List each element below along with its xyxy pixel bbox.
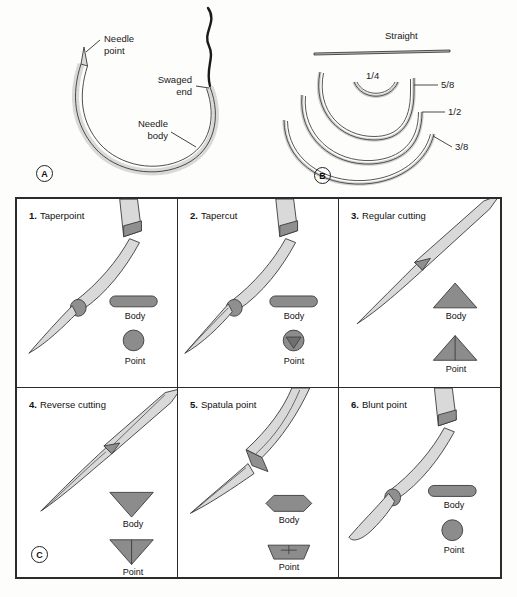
xsec-point-6: [442, 520, 463, 541]
xsec-body-label-3: Body: [425, 311, 487, 321]
needle-art-spatula-point: [178, 388, 338, 577]
needle-tip-facet-4: [43, 452, 106, 510]
needle-arc-five-eighths-fill: [319, 72, 414, 140]
xsec-body-2: [270, 296, 317, 307]
panel-badge-b: B: [314, 167, 331, 184]
xsec-body-label-1: Body: [104, 311, 166, 321]
needle-tip-1: [29, 306, 76, 353]
label-needle-body: Needle body: [96, 118, 168, 141]
needle-tip-4: [41, 448, 112, 511]
needle-type-cell-5: 5.Spatula point Body Point: [178, 388, 339, 577]
xsec-point-1: [123, 330, 144, 351]
needle-arc-quarter-fill: [354, 82, 398, 96]
xsec-body-label-6: Body: [423, 500, 485, 510]
needle-arc-five-eighths-outer: [319, 72, 414, 140]
leader-swaged-end: [196, 86, 209, 88]
xsec-body-6: [428, 485, 476, 496]
panel-badge-a: A: [36, 165, 53, 182]
label-five-eighths: 5/8: [441, 79, 454, 91]
leader-needle-point: [86, 40, 100, 52]
figure-root: Needle point Swaged end Needle body A: [0, 0, 517, 597]
needle-point-tip: [81, 47, 88, 66]
needle-tip-3: [357, 264, 422, 323]
needle-tip-facet-2: [186, 308, 229, 353]
xsec-body-5: [266, 495, 312, 511]
suture-thread: [207, 8, 211, 86]
label-swaged-end: Swaged end: [120, 74, 192, 97]
label-quarter: 1/4: [366, 70, 379, 82]
xsec-body-label-5: Body: [258, 515, 320, 525]
xsec-body-1: [110, 296, 157, 307]
needle-type-grid: 1.Taperpoint Body Point: [17, 199, 500, 577]
needle-tip-facet-5: [192, 468, 246, 513]
xsec-point-label-4: Point: [102, 567, 164, 577]
xsec-point-label-5: Point: [258, 562, 320, 572]
panel-badge-c: C: [31, 546, 48, 563]
xsec-body-3: [433, 283, 477, 308]
label-needle-point: Needle point: [104, 33, 134, 56]
needle-type-cell-1: 1.Taperpoint Body Point: [17, 199, 178, 388]
panel-a-needle-anatomy: Needle point Swaged end Needle body A: [0, 0, 262, 192]
panel-c-needle-point-types: 1.Taperpoint Body Point: [15, 197, 502, 579]
needle-art-regular-cutting: [339, 199, 500, 387]
needle-type-cell-3: 3.Regular cutting Body Point: [339, 199, 500, 388]
panel-b-needle-curvature: Straight 1/4 5/8 1/2 3/8 B: [262, 0, 517, 192]
xsec-body-label-4: Body: [102, 519, 164, 529]
leader-needle-body: [171, 132, 196, 147]
xsec-point-label-1: Point: [104, 356, 166, 366]
needle-type-cell-6: 6.Blunt point Body Point: [339, 388, 500, 577]
needle-tip-6: [349, 493, 395, 540]
needle-body-5: [246, 388, 310, 458]
xsec-body-label-2: Body: [263, 311, 325, 321]
needle-type-cell-4: 4.Reverse cutting Body Point C: [17, 388, 178, 577]
leader-three-eighths: [433, 136, 452, 147]
xsec-point-label-2: Point: [263, 356, 325, 366]
xsec-point-label-3: Point: [425, 364, 487, 374]
xsec-body-4: [110, 492, 153, 517]
xsec-point-label-6: Point: [423, 545, 485, 555]
label-half: 1/2: [448, 106, 461, 118]
label-three-eighths: 3/8: [455, 141, 468, 153]
label-straight: Straight: [385, 30, 418, 42]
needle-curvature-illustration: [262, 0, 517, 192]
needle-straight: [314, 50, 450, 55]
needle-body-facet-4: [108, 395, 165, 450]
needle-type-cell-2: 2.Tapercut Body Point: [178, 199, 339, 388]
